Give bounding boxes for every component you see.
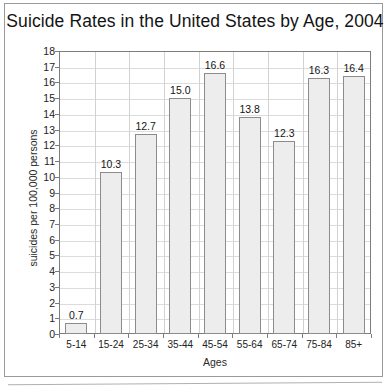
y-axis-tick-mark [55, 114, 59, 115]
x-axis-tick-mark [128, 334, 129, 338]
y-axis-tick-mark [55, 240, 59, 241]
x-axis-tick-label: 25-34 [133, 339, 159, 350]
y-axis-tick-label: 14 [30, 108, 55, 120]
bar-group[interactable]: 16.4 [336, 51, 371, 334]
x-axis-tick-mark [59, 334, 60, 338]
y-axis-tick-label: 16 [30, 76, 55, 88]
y-axis-tick-mark [55, 161, 59, 162]
y-axis-tick-mark [55, 334, 59, 335]
x-axis-tick-labels: 5-1415-2425-3435-4445-5455-6465-7475-848… [59, 339, 371, 353]
y-axis-tick-label: 15 [30, 92, 55, 104]
y-axis-tick-label: 2 [30, 297, 55, 309]
bar-value-label: 0.7 [69, 309, 84, 321]
y-axis-tick-labels: 0123456789101112131415161718 [30, 51, 55, 334]
bar-value-label: 13.8 [239, 103, 259, 115]
x-axis-tick-label: 15-24 [98, 339, 124, 350]
x-axis-title: Ages [59, 356, 371, 368]
bars-layer: 0.710.312.715.016.613.812.316.316.4 [59, 51, 371, 334]
y-axis-tick-mark [55, 82, 59, 83]
y-axis-tick-label: 3 [30, 281, 55, 293]
y-axis-tick-label: 12 [30, 139, 55, 151]
bar[interactable] [343, 76, 365, 334]
bar-value-label: 16.6 [205, 59, 225, 71]
bar[interactable] [204, 73, 226, 334]
bar-value-label: 12.7 [135, 120, 155, 132]
x-axis-tick-mark [267, 334, 268, 338]
bar[interactable] [135, 134, 157, 334]
bar-group[interactable]: 12.3 [267, 51, 302, 334]
x-axis-tick-mark [94, 334, 95, 338]
x-axis-tick-mark [163, 334, 164, 338]
y-axis-tick-label: 5 [30, 249, 55, 261]
y-axis-tick-mark [55, 67, 59, 68]
y-axis-tick-mark [55, 51, 59, 52]
bar-group[interactable]: 12.7 [128, 51, 163, 334]
y-axis-tick-mark [55, 271, 59, 272]
x-axis-tick-label: 55-64 [237, 339, 263, 350]
y-axis-tick-mark [55, 145, 59, 146]
bar-group[interactable]: 10.3 [94, 51, 129, 334]
y-axis-tick-mark [55, 318, 59, 319]
y-axis-tick-mark [55, 224, 59, 225]
y-axis-tick-label: 8 [30, 202, 55, 214]
y-axis-tick-label: 10 [30, 171, 55, 183]
bar-group[interactable]: 0.7 [59, 51, 94, 334]
x-axis-tick-label: 65-74 [272, 339, 298, 350]
y-axis-tick-mark [55, 193, 59, 194]
y-axis-tick-label: 4 [30, 265, 55, 277]
bar-value-label: 16.4 [343, 62, 363, 74]
bar-value-label: 15.0 [170, 84, 190, 96]
x-axis-tick-label: 85+ [345, 339, 362, 350]
x-axis-tick-mark [371, 334, 372, 338]
bar[interactable] [308, 78, 330, 334]
clipped-footnote [0, 385, 390, 392]
x-axis-tick-mark [198, 334, 199, 338]
y-axis-tick-mark [55, 287, 59, 288]
y-axis-tick-label: 0 [30, 328, 55, 340]
y-axis-tick-mark [55, 255, 59, 256]
y-axis-tick-label: 7 [30, 218, 55, 230]
y-axis-tick-label: 11 [30, 155, 55, 167]
y-axis-tick-mark [55, 303, 59, 304]
y-axis-tick-label: 18 [30, 45, 55, 57]
y-axis-tick-label: 1 [30, 312, 55, 324]
x-axis-tick-label: 75-84 [306, 339, 332, 350]
y-axis-tick-mark [55, 208, 59, 209]
bar[interactable] [273, 141, 295, 334]
bar[interactable] [100, 172, 122, 334]
bar[interactable] [65, 323, 87, 334]
y-axis-tick-label: 9 [30, 187, 55, 199]
y-axis-tick-label: 6 [30, 234, 55, 246]
x-axis-tick-label: 35-44 [168, 339, 194, 350]
x-axis-tick-mark [232, 334, 233, 338]
y-axis-tick-mark [55, 177, 59, 178]
x-axis-tick-mark [302, 334, 303, 338]
bar-value-label: 10.3 [101, 158, 121, 170]
bar-value-label: 16.3 [309, 64, 329, 76]
bar-group[interactable]: 16.3 [302, 51, 337, 334]
x-axis-tick-mark [336, 334, 337, 338]
y-axis-tick-label: 13 [30, 124, 55, 136]
bar-value-label: 12.3 [274, 127, 294, 139]
y-axis-tick-mark [55, 98, 59, 99]
bar-group[interactable]: 13.8 [232, 51, 267, 334]
bar[interactable] [239, 117, 261, 334]
bar-group[interactable]: 16.6 [198, 51, 233, 334]
x-axis-tick-label: 45-54 [202, 339, 228, 350]
chart-title: Suicide Rates in the United States by Ag… [0, 11, 390, 32]
y-axis-tick-mark [55, 130, 59, 131]
bar[interactable] [169, 98, 191, 334]
bar-group[interactable]: 15.0 [163, 51, 198, 334]
y-axis-tick-label: 17 [30, 61, 55, 73]
x-axis-tick-label: 5-14 [66, 339, 86, 350]
